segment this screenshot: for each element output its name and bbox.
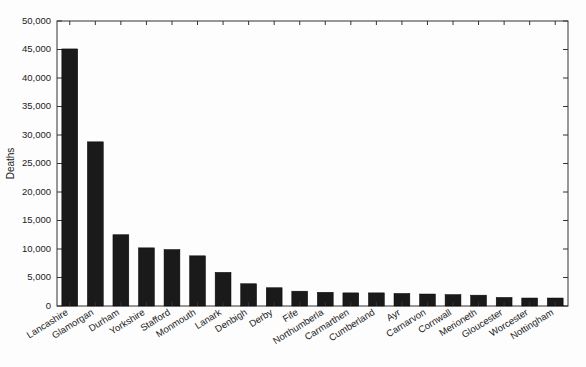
bar-lancashire[interactable]: [62, 49, 78, 306]
chart-figure: 05,00010,00015,00020,00025,00030,00035,0…: [0, 0, 586, 367]
bar-glamorgan[interactable]: [87, 142, 103, 306]
bar-monmouth[interactable]: [190, 256, 206, 306]
x-tick-label-derby: Derby: [247, 306, 275, 329]
y-tick-label: 25,000: [22, 157, 51, 168]
y-tick-label: 40,000: [22, 72, 51, 83]
y-tick-label: 35,000: [22, 100, 51, 111]
y-tick-label: 45,000: [22, 43, 51, 54]
y-tick-label: 5,000: [27, 271, 51, 282]
y-tick-label: 0: [46, 300, 51, 311]
bar-chart-svg: 05,00010,00015,00020,00025,00030,00035,0…: [0, 0, 586, 367]
y-tick-label: 30,000: [22, 129, 51, 140]
plot-frame: [57, 21, 568, 306]
y-tick-label: 15,000: [22, 214, 51, 225]
bar-stafford[interactable]: [164, 250, 180, 306]
y-tick-label: 20,000: [22, 186, 51, 197]
bar-durham[interactable]: [113, 235, 129, 306]
y-tick-label: 10,000: [22, 243, 51, 254]
y-tick-label: 50,000: [22, 15, 51, 26]
bar-lanark[interactable]: [215, 272, 231, 306]
bar-yorkshire[interactable]: [139, 248, 155, 306]
y-axis-title: Deaths: [5, 148, 16, 180]
